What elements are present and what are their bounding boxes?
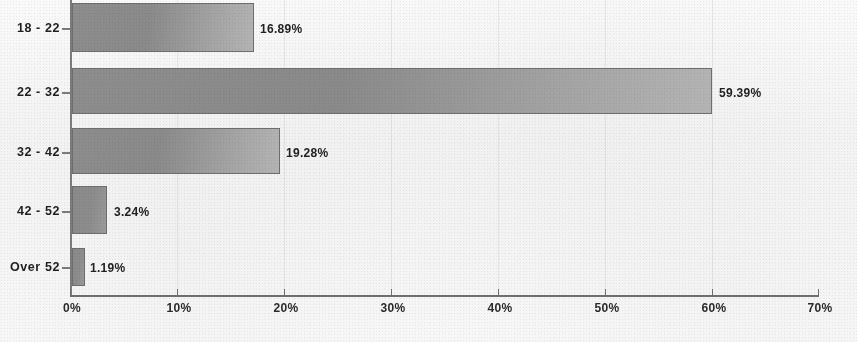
x-tick-30 [391, 289, 392, 296]
x-axis-label-50: 50% [595, 301, 620, 315]
y-axis-label-42-52: 42 - 52 [0, 204, 60, 218]
x-axis-label-30: 30% [381, 301, 406, 315]
y-tick-over-52 [62, 267, 70, 269]
gridline-30 [391, 0, 392, 296]
bar-value-32-42: 19.28% [286, 146, 329, 160]
x-axis-label-0: 0% [63, 301, 81, 315]
y-tick-42-52 [62, 211, 70, 213]
x-tick-20 [284, 289, 285, 296]
y-tick-18-22 [62, 28, 70, 30]
y-axis-line [70, 0, 72, 296]
x-axis-label-60: 60% [702, 301, 727, 315]
x-axis-line [70, 295, 819, 297]
bar-over-52 [72, 248, 85, 286]
x-tick-10 [177, 289, 178, 296]
x-tick-70 [818, 289, 819, 296]
y-axis-label-32-42: 32 - 42 [0, 145, 60, 159]
bar-value-over-52: 1.19% [90, 261, 126, 275]
x-axis-label-20: 20% [274, 301, 299, 315]
gridline-50 [605, 0, 606, 296]
y-tick-22-32 [62, 92, 70, 94]
bar-32-42 [72, 128, 280, 174]
y-axis-label-18-22: 18 - 22 [0, 21, 60, 35]
x-axis-label-40: 40% [488, 301, 513, 315]
x-tick-60 [712, 289, 713, 296]
bar-42-52 [72, 186, 107, 234]
y-axis-label-22-32: 22 - 32 [0, 85, 60, 99]
x-tick-40 [498, 289, 499, 296]
gridline-40 [498, 0, 499, 296]
y-tick-32-42 [62, 152, 70, 154]
bar-value-18-22: 16.89% [260, 22, 303, 36]
bar-chart: 16.89% 59.39% 19.28% 3.24% 1.19% 18 - 22… [0, 0, 857, 342]
bar-value-22-32: 59.39% [719, 86, 762, 100]
bar-value-42-52: 3.24% [114, 205, 150, 219]
bar-22-32 [72, 68, 712, 114]
bar-18-22 [72, 3, 254, 52]
gridline-20 [284, 0, 285, 296]
x-axis-label-10: 10% [167, 301, 192, 315]
x-tick-0 [70, 289, 71, 296]
y-axis-label-over-52: Over 52 [0, 260, 60, 274]
x-tick-50 [605, 289, 606, 296]
gridline-60 [712, 0, 713, 296]
x-axis-label-70: 70% [808, 301, 833, 315]
